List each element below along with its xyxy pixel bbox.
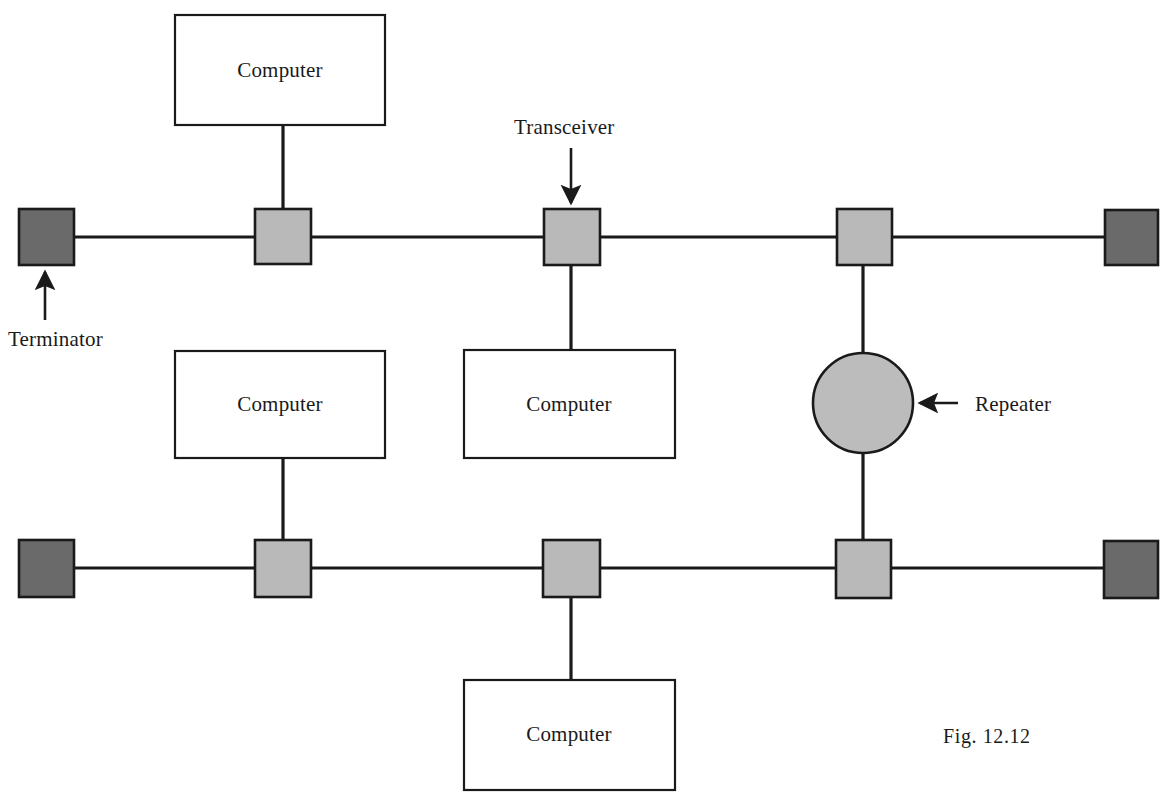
terminator-bottom-right-shape[interactable] (1104, 541, 1158, 598)
terminator-bottom-left-shape[interactable] (19, 540, 74, 597)
transceiver-top-1-shape[interactable] (255, 209, 311, 264)
terminator-top-left-shape[interactable] (19, 209, 74, 265)
computer-middle-center-label: Computer (464, 392, 674, 417)
callout-repeater-label: Repeater (975, 392, 1051, 417)
transceiver-top-2-shape[interactable] (544, 209, 600, 265)
transceiver-top-3-shape[interactable] (837, 209, 892, 265)
callout-terminator-label: Terminator (8, 327, 103, 352)
figure-caption: Fig. 12.12 (943, 725, 1031, 748)
repeater-shape[interactable] (813, 353, 913, 453)
network-diagram-figure: Computer Computer Computer Computer Tran… (0, 0, 1176, 812)
callout-transceiver-label: Transceiver (514, 115, 615, 140)
transceiver-bottom-3-shape[interactable] (836, 540, 891, 598)
transceiver-bottom-2-shape[interactable] (543, 540, 600, 597)
terminator-top-right-shape[interactable] (1105, 210, 1158, 265)
computer-bottom-label: Computer (464, 722, 674, 747)
computer-middle-left-label: Computer (175, 392, 385, 417)
transceiver-bottom-1-shape[interactable] (255, 540, 311, 597)
computer-top-label: Computer (175, 58, 385, 83)
